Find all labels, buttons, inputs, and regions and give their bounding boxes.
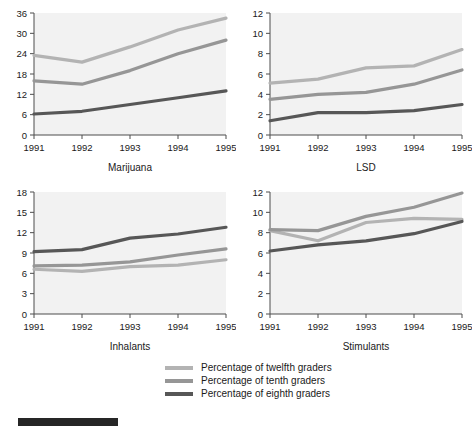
y-tick-label: 6: [258, 69, 263, 80]
y-tick-label: 0: [22, 130, 27, 141]
chart-svg-lsd: 02468101219911992199319941995LSD: [236, 0, 472, 179]
chart-panel-stimulants: 02468101219911992199319941995Stimulants: [236, 179, 472, 358]
legend-label-twelfth: Percentage of twelfth graders: [201, 362, 332, 374]
chart-svg-marijuana: 06121824303619911992199319941995Marijuan…: [0, 0, 236, 179]
y-tick-label: 2: [258, 109, 263, 120]
legend-item-tenth: Percentage of tenth graders: [165, 375, 325, 387]
y-tick-label: 2: [258, 288, 263, 299]
x-tick-label: 1992: [307, 321, 328, 332]
y-tick-label: 3: [22, 288, 27, 299]
x-tick-label: 1995: [215, 321, 236, 332]
y-tick-label: 12: [16, 227, 27, 238]
legend-swatch-tenth: [165, 379, 193, 383]
y-tick-label: 4: [258, 268, 263, 279]
y-tick-label: 0: [258, 130, 263, 141]
legend-label-eighth: Percentage of eighth graders: [201, 388, 330, 400]
y-tick-label: 18: [16, 187, 27, 198]
x-tick-label: 1995: [215, 142, 236, 153]
chart-panel-marijuana: 06121824303619911992199319941995Marijuan…: [0, 0, 236, 179]
y-tick-label: 12: [252, 187, 263, 198]
y-tick-label: 0: [258, 309, 263, 320]
x-tick-label: 1993: [119, 142, 140, 153]
y-tick-label: 12: [16, 89, 27, 100]
chart-title: Marijuana: [108, 162, 152, 173]
x-tick-label: 1995: [451, 321, 472, 332]
chart-legend: Percentage of twelfth graders Percentage…: [0, 358, 472, 400]
x-tick-label: 1993: [355, 321, 376, 332]
legend-swatch-eighth: [165, 392, 193, 396]
plot-background: [270, 192, 462, 314]
y-tick-label: 15: [16, 207, 27, 218]
x-tick-label: 1993: [119, 321, 140, 332]
y-tick-label: 8: [258, 227, 263, 238]
y-tick-label: 24: [16, 48, 27, 59]
legend-item-twelfth: Percentage of twelfth graders: [165, 362, 332, 374]
chart-title: Stimulants: [343, 341, 390, 352]
x-tick-label: 1992: [71, 142, 92, 153]
x-tick-label: 1991: [259, 321, 280, 332]
x-tick-label: 1992: [307, 142, 328, 153]
x-tick-label: 1995: [451, 142, 472, 153]
bottom-rule-bar: [18, 418, 118, 426]
chart-svg-inhalants: 036912151819911992199319941995Inhalants: [0, 179, 236, 358]
chart-title: LSD: [356, 162, 375, 173]
legend-swatch-twelfth: [165, 366, 193, 370]
x-tick-label: 1994: [167, 142, 188, 153]
y-tick-label: 36: [16, 8, 27, 19]
y-tick-label: 30: [16, 28, 27, 39]
y-tick-label: 10: [252, 207, 263, 218]
y-tick-label: 6: [22, 109, 27, 120]
x-tick-label: 1994: [167, 321, 188, 332]
y-tick-label: 6: [258, 248, 263, 259]
x-tick-label: 1992: [71, 321, 92, 332]
y-tick-label: 10: [252, 28, 263, 39]
x-tick-label: 1993: [355, 142, 376, 153]
legend-label-tenth: Percentage of tenth graders: [201, 375, 325, 387]
legend-item-eighth: Percentage of eighth graders: [165, 388, 330, 400]
chart-panel-inhalants: 036912151819911992199319941995Inhalants: [0, 179, 236, 358]
x-tick-label: 1994: [403, 321, 424, 332]
chart-grid: 06121824303619911992199319941995Marijuan…: [0, 0, 472, 358]
plot-background: [34, 13, 226, 135]
y-tick-label: 9: [22, 248, 27, 259]
y-tick-label: 18: [16, 69, 27, 80]
x-tick-label: 1994: [403, 142, 424, 153]
chart-title: Inhalants: [110, 341, 151, 352]
chart-panel-lsd: 02468101219911992199319941995LSD: [236, 0, 472, 179]
chart-svg-stimulants: 02468101219911992199319941995Stimulants: [236, 179, 472, 358]
x-tick-label: 1991: [23, 321, 44, 332]
y-tick-label: 12: [252, 8, 263, 19]
x-tick-label: 1991: [23, 142, 44, 153]
x-tick-label: 1991: [259, 142, 280, 153]
y-tick-label: 6: [22, 268, 27, 279]
y-tick-label: 8: [258, 48, 263, 59]
y-tick-label: 0: [22, 309, 27, 320]
y-tick-label: 4: [258, 89, 263, 100]
